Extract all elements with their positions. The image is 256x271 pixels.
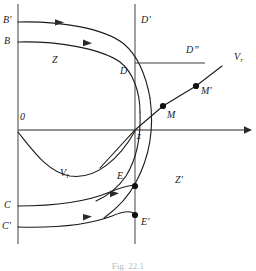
figure-caption: Fig. 22.1: [0, 261, 256, 271]
point-m: [160, 103, 166, 109]
curve-z-prime-outer: [104, 98, 151, 218]
label-e: E: [117, 171, 123, 181]
curve-c-inflow: [18, 185, 135, 206]
label-z-point: z: [137, 131, 141, 141]
label-c-prime: C': [2, 221, 11, 231]
curve-b-to-d: [18, 42, 140, 112]
arrow-marker-c: [110, 191, 119, 198]
arrow-marker-b-prime: [55, 19, 64, 25]
label-v-l: Vl: [60, 168, 69, 180]
curve-b-prime-to-d-prime: [18, 22, 150, 98]
point-e: [132, 183, 138, 189]
point-m-prime: [193, 83, 199, 89]
label-d-prime: D': [141, 15, 151, 25]
label-z-prime-curve: Z': [175, 175, 183, 185]
curve-v-r: [100, 66, 222, 168]
label-e-prime: E': [141, 217, 150, 227]
label-origin: 0: [20, 112, 25, 122]
arrow-marker-b: [83, 40, 92, 47]
label-d-double-prime: D”: [186, 45, 199, 55]
label-b-prime: B': [3, 15, 12, 25]
label-b: B: [4, 36, 10, 46]
curve-c-prime-inflow: [18, 212, 135, 228]
label-m-prime: M': [201, 86, 212, 96]
label-z-curve: Z: [52, 55, 58, 65]
label-v-r-subscript: r: [240, 56, 243, 64]
point-e-prime: [132, 212, 138, 218]
label-m: M: [167, 110, 176, 120]
arrow-marker-c-prime: [83, 214, 92, 221]
label-v-l-subscript: l: [66, 172, 68, 180]
label-d: D: [120, 66, 127, 76]
label-c: C: [4, 200, 11, 210]
horizontal-axis-arrowhead: [244, 126, 252, 133]
label-v-r: Vr: [234, 52, 244, 64]
